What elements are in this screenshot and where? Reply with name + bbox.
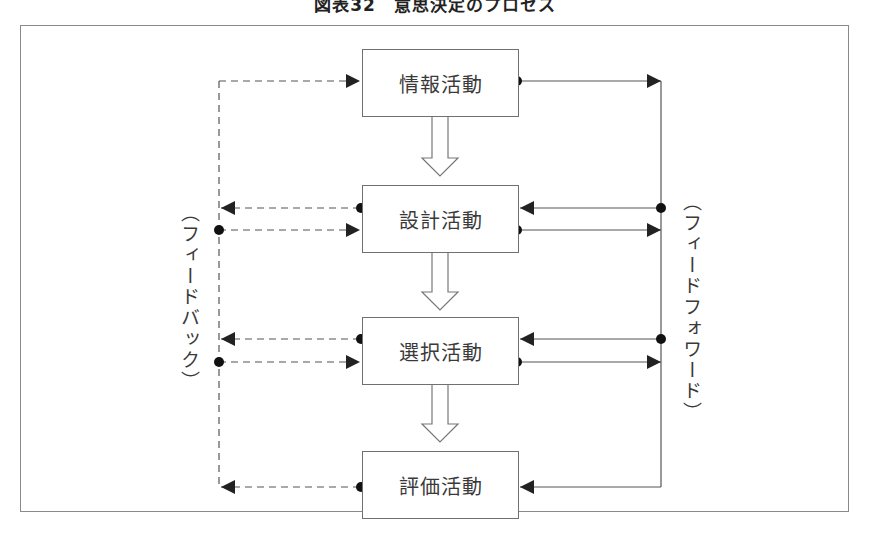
box-information-activity: 情報活動 <box>362 49 519 117</box>
box-label: 選択活動 <box>399 337 483 366</box>
feedback-dots <box>214 203 366 492</box>
box-label: 評価活動 <box>399 471 483 500</box>
feedforward-loop <box>518 81 661 487</box>
box-label: 情報活動 <box>399 69 483 98</box>
box-design-activity: 設計活動 <box>362 185 519 253</box>
sequence-arrow-info-design <box>422 117 458 176</box>
feedback-loop <box>219 81 360 487</box>
feedback-label: （フィードバック） <box>176 203 203 392</box>
box-label: 設計活動 <box>399 205 483 234</box>
box-choice-activity: 選択活動 <box>362 317 519 385</box>
sequence-arrow-choice-review <box>422 385 458 442</box>
sequence-arrow-design-choice <box>422 253 458 310</box>
box-review-activity: 評価活動 <box>362 451 519 519</box>
feedforward-label: （フィードフォワード） <box>678 192 705 423</box>
feedforward-dots <box>512 76 666 367</box>
